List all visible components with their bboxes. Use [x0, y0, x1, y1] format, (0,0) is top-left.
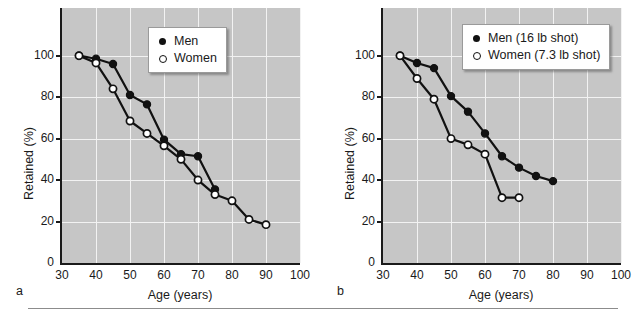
y-axis-label-a: Retained (%) — [22, 127, 36, 200]
y-tick-label: 20 — [341, 214, 375, 228]
legend-label-men: Men — [174, 33, 198, 50]
series-line — [79, 56, 266, 225]
x-axis-label-b: Age (years) — [381, 288, 621, 302]
open-circle-icon — [470, 47, 483, 64]
y-tick-label: 80 — [341, 89, 375, 103]
data-point-open — [177, 156, 184, 163]
y-axis-label-b: Retained (%) — [343, 127, 357, 200]
y-tick-label: 100 — [341, 48, 375, 62]
series-line — [400, 56, 553, 181]
gridline-vertical — [621, 8, 622, 263]
data-point-open — [126, 117, 133, 124]
data-point-open — [143, 130, 150, 137]
y-tick-label: 80 — [20, 89, 54, 103]
data-point-open — [413, 75, 420, 82]
y-tick-mark — [377, 179, 382, 181]
data-point-filled — [481, 130, 488, 137]
y-tick-mark — [377, 55, 382, 57]
y-tick-mark — [56, 179, 61, 181]
x-tick-label: 100 — [601, 268, 641, 282]
data-point-open — [515, 194, 522, 201]
series-line — [79, 56, 215, 190]
y-axis-line-a — [60, 8, 62, 265]
y-axis-line-b — [381, 8, 383, 265]
y-tick-label: 0 — [341, 255, 375, 269]
data-point-open — [160, 142, 167, 149]
x-axis-label-a: Age (years) — [60, 288, 300, 302]
data-point-open — [464, 141, 471, 148]
data-point-open — [75, 52, 82, 59]
data-point-filled — [430, 65, 437, 72]
data-point-open — [430, 96, 437, 103]
panel-letter-b: b — [337, 284, 344, 298]
x-tick-label: 100 — [280, 268, 320, 282]
data-point-filled — [194, 153, 201, 160]
data-point-open — [262, 221, 269, 228]
data-point-filled — [515, 164, 522, 171]
x-axis-line-a — [60, 263, 300, 265]
data-point-filled — [143, 101, 150, 108]
filled-circle-icon — [156, 33, 169, 50]
y-tick-mark — [377, 96, 382, 98]
y-tick-mark — [56, 138, 61, 140]
data-point-open — [447, 135, 454, 142]
data-point-open — [245, 216, 252, 223]
y-tick-mark — [377, 221, 382, 223]
data-point-filled — [549, 178, 556, 185]
y-tick-label: 20 — [20, 214, 54, 228]
open-circle-icon — [156, 50, 169, 67]
panel-a: 020406080100 30405060708090100 Age (year… — [0, 0, 321, 320]
legend-b: Men (16 lb shot) Women (7.3 lb shot) — [462, 24, 610, 70]
data-point-filled — [498, 153, 505, 160]
data-point-open — [481, 151, 488, 158]
panel-letter-a: a — [16, 284, 23, 298]
gridline-vertical — [300, 8, 301, 263]
y-tick-mark — [56, 221, 61, 223]
data-point-filled — [532, 172, 539, 179]
y-tick-mark — [56, 55, 61, 57]
data-point-open — [228, 197, 235, 204]
y-tick-label: 0 — [20, 255, 54, 269]
legend-label-men-shot: Men (16 lb shot) — [488, 30, 578, 47]
legend-item-women-shot: Women (7.3 lb shot) — [470, 47, 600, 64]
figure-container: 020406080100 30405060708090100 Age (year… — [0, 0, 643, 320]
y-tick-label: 100 — [20, 48, 54, 62]
filled-circle-icon — [470, 30, 483, 47]
legend-item-men-shot: Men (16 lb shot) — [470, 30, 600, 47]
data-point-filled — [447, 93, 454, 100]
data-point-open — [211, 191, 218, 198]
data-point-filled — [413, 59, 420, 66]
data-point-open — [498, 194, 505, 201]
legend-item-women: Women — [156, 50, 217, 67]
data-point-filled — [464, 108, 471, 115]
y-tick-mark — [377, 138, 382, 140]
legend-a: Men Women — [148, 27, 227, 73]
data-point-open — [109, 85, 116, 92]
panel-b: 020406080100 30405060708090100 Age (year… — [321, 0, 642, 320]
data-point-open — [194, 176, 201, 183]
footer-divider — [28, 308, 618, 309]
legend-label-women: Women — [174, 50, 217, 67]
x-axis-line-b — [381, 263, 621, 265]
data-point-filled — [126, 91, 133, 98]
data-point-open — [92, 59, 99, 66]
legend-label-women-shot: Women (7.3 lb shot) — [488, 47, 600, 64]
y-tick-mark — [56, 96, 61, 98]
data-point-filled — [109, 60, 116, 67]
legend-item-men: Men — [156, 33, 217, 50]
data-point-open — [396, 52, 403, 59]
